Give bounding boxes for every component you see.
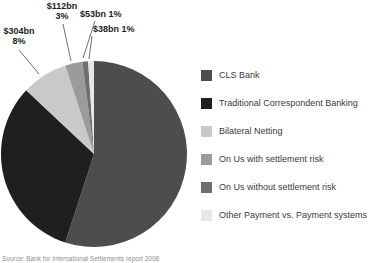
callout-bilateral-netting: $304bn 8% [1, 26, 37, 46]
callout-amount: $53bn 1% [80, 9, 122, 19]
legend-item-bilateral-netting: Bilateral Netting [201, 126, 367, 137]
legend-label: Other Payment vs. Payment systems [219, 210, 367, 221]
legend-swatch [201, 182, 212, 193]
legend-label: Bilateral Netting [219, 126, 283, 137]
legend-swatch [201, 126, 212, 137]
callout-other-pvp: $38bn 1% [93, 24, 135, 34]
legend-item-traditional-correspondent-banking: Traditional Correspondent Banking [201, 98, 367, 109]
legend-label: On Us with settlement risk [219, 154, 324, 165]
legend-swatch [201, 70, 212, 81]
callout-amount: $38bn 1% [93, 24, 135, 34]
legend-label: Traditional Correspondent Banking [219, 98, 358, 109]
leader-line-bilateral-netting [19, 50, 39, 74]
callout-amount: $304bn [1, 26, 37, 36]
pie-chart-figure: $304bn 8% $112bn 3% $53bn 1% $38bn 1% CL… [0, 0, 375, 263]
legend-swatch [201, 210, 212, 221]
callout-percent: 3% [44, 11, 80, 21]
leader-line-other-pvp [89, 36, 92, 59]
legend-item-on-us-without-settlement-risk: On Us without settlement risk [201, 182, 367, 193]
source-note: Source: Bank for International Settlemen… [2, 255, 159, 262]
legend-label: CLS Bank [219, 70, 260, 81]
legend: CLS Bank Traditional Correspondent Banki… [201, 70, 367, 221]
callout-percent: 8% [1, 36, 37, 46]
legend-item-other-payment-vs-payment: Other Payment vs. Payment systems [201, 210, 367, 221]
legend-label: On Us without settlement risk [219, 182, 336, 193]
legend-swatch [201, 154, 212, 165]
legend-item-on-us-with-settlement-risk: On Us with settlement risk [201, 154, 367, 165]
callout-on-us-without-risk: $53bn 1% [80, 9, 122, 19]
leader-line-on-us-with-risk [63, 24, 71, 61]
legend-item-cls-bank: CLS Bank [201, 70, 367, 81]
callout-on-us-with-risk: $112bn 3% [44, 1, 80, 21]
callout-amount: $112bn [44, 1, 80, 11]
legend-swatch [201, 98, 212, 109]
